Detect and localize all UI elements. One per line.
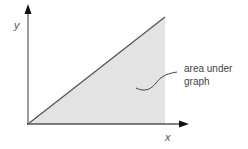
x-axis-arrow-icon bbox=[179, 121, 189, 128]
annotation-line-2: graph bbox=[184, 75, 210, 88]
x-axis-label: x bbox=[165, 131, 171, 144]
annotation-line-1: area under bbox=[184, 62, 232, 75]
y-axis-arrow-icon bbox=[25, 4, 32, 14]
y-axis-label: y bbox=[14, 19, 20, 32]
